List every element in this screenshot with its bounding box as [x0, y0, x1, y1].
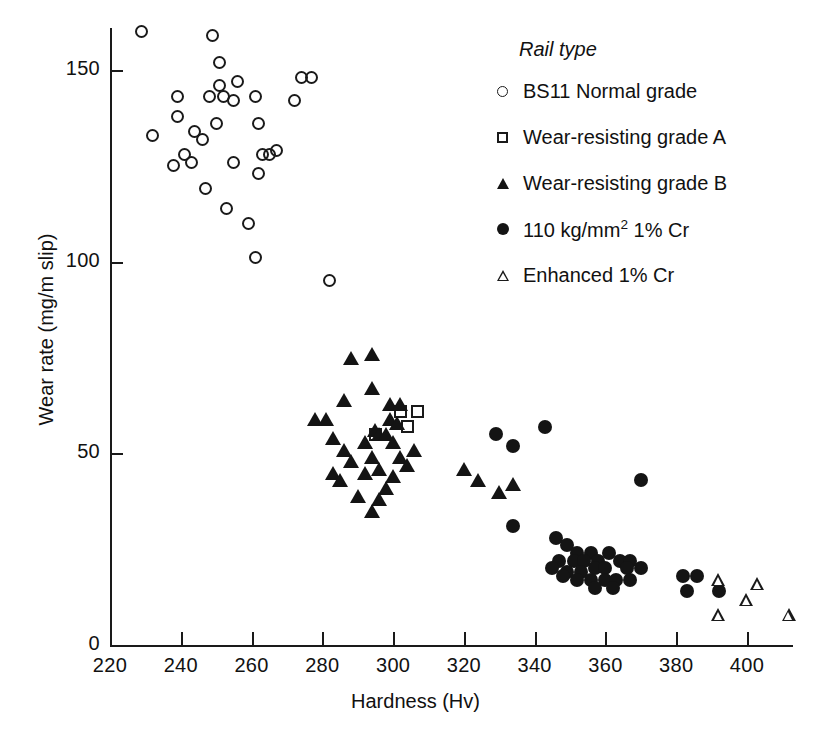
- data-point-circle-filled: [623, 573, 637, 587]
- data-point-triangle-filled: [332, 473, 348, 487]
- legend-item-4[interactable]: Enhanced 1% Cr: [497, 263, 797, 287]
- data-point-circle-filled: [680, 584, 694, 598]
- data-point-circle-open: [231, 75, 244, 88]
- data-point-circle-open: [288, 94, 301, 107]
- x-tick-label-220: 220: [78, 654, 142, 677]
- data-point-circle-filled: [506, 519, 520, 533]
- x-tick-label-280: 280: [290, 654, 354, 677]
- data-point-circle-open: [249, 90, 262, 103]
- data-point-circle-open: [213, 56, 226, 69]
- legend-label-3: 110 kg/mm2 1% Cr: [523, 217, 689, 242]
- data-point-triangle-filled: [343, 351, 359, 365]
- x-tick-label-360: 360: [573, 654, 637, 677]
- data-point-triangle-filled: [357, 466, 373, 480]
- data-point-circle-open: [270, 144, 283, 157]
- data-point-triangle-open: [782, 608, 796, 621]
- x-axis-label: Hardness (Hv): [0, 690, 831, 713]
- legend-label-0: BS11 Normal grade: [523, 80, 697, 103]
- data-point-circle-open: [249, 251, 262, 264]
- x-tick-label-300: 300: [361, 654, 425, 677]
- data-point-circle-filled: [556, 569, 570, 583]
- x-tick-label-380: 380: [644, 654, 708, 677]
- legend-item-2[interactable]: Wear-resisting grade B: [497, 171, 797, 195]
- data-point-circle-filled: [676, 569, 690, 583]
- data-point-circle-open: [305, 71, 318, 84]
- legend-item-3[interactable]: 110 kg/mm2 1% Cr: [497, 217, 797, 241]
- data-point-circle-open: [227, 94, 240, 107]
- data-point-circle-filled: [489, 427, 503, 441]
- data-point-triangle-filled: [392, 397, 408, 411]
- data-point-circle-open: [196, 133, 209, 146]
- data-point-circle-open: [171, 110, 184, 123]
- x-tick-label-320: 320: [432, 654, 496, 677]
- data-point-circle-filled: [570, 573, 584, 587]
- data-point-circle-open: [167, 159, 180, 172]
- x-axis-line: [110, 645, 793, 647]
- legend-item-1[interactable]: Wear-resisting grade A: [497, 125, 797, 149]
- triangle-filled-icon: [497, 178, 509, 189]
- data-point-triangle-filled: [364, 381, 380, 395]
- data-point-triangle-open: [739, 593, 753, 606]
- circle-open-icon: [497, 86, 508, 97]
- data-point-circle-filled: [634, 561, 648, 575]
- x-tick-label-400: 400: [715, 654, 779, 677]
- circle-filled-icon: [497, 223, 509, 235]
- triangle-open-icon: [497, 270, 509, 281]
- data-point-circle-open: [171, 90, 184, 103]
- data-point-triangle-filled: [491, 485, 507, 499]
- data-point-triangle-filled: [336, 393, 352, 407]
- data-point-circle-open: [199, 182, 212, 195]
- data-point-circle-open: [185, 156, 198, 169]
- data-point-circle-filled: [712, 584, 726, 598]
- legend-items: BS11 Normal gradeWear-resisting grade AW…: [497, 79, 797, 287]
- data-point-circle-open: [220, 202, 233, 215]
- data-point-triangle-open: [711, 573, 725, 586]
- square-open-icon: [497, 132, 508, 143]
- data-point-triangle-filled: [470, 473, 486, 487]
- legend-marker-circle-open-icon: [497, 86, 523, 97]
- y-tick-label-0: 0: [38, 632, 100, 655]
- data-point-circle-open: [323, 274, 336, 287]
- legend-label-4: Enhanced 1% Cr: [523, 264, 674, 287]
- data-point-triangle-open: [750, 577, 764, 590]
- data-point-circle-filled: [506, 439, 520, 453]
- legend-item-0[interactable]: BS11 Normal grade: [497, 79, 797, 103]
- data-point-circle-filled: [634, 473, 648, 487]
- data-point-triangle-filled: [364, 504, 380, 518]
- data-point-triangle-filled: [399, 458, 415, 472]
- data-point-triangle-filled: [505, 477, 521, 491]
- data-point-circle-open: [252, 117, 265, 130]
- data-point-circle-filled: [690, 569, 704, 583]
- data-point-circle-open: [252, 167, 265, 180]
- x-tick-label-340: 340: [503, 654, 567, 677]
- data-point-triangle-filled: [350, 489, 366, 503]
- data-point-triangle-filled: [318, 412, 334, 426]
- data-point-circle-filled: [588, 581, 602, 595]
- data-point-circle-open: [227, 156, 240, 169]
- data-point-circle-open: [135, 25, 148, 38]
- data-point-circle-filled: [538, 420, 552, 434]
- data-point-triangle-filled: [406, 443, 422, 457]
- data-point-triangle-filled: [385, 435, 401, 449]
- legend-marker-circle-filled-icon: [497, 223, 523, 235]
- y-axis-label: Wear rate (mg/m slip): [35, 70, 58, 590]
- legend-title: Rail type: [519, 38, 797, 61]
- legend-label-2: Wear-resisting grade B: [523, 172, 727, 195]
- data-point-triangle-filled: [357, 435, 373, 449]
- x-tick-label-260: 260: [220, 654, 284, 677]
- wear-rate-vs-hardness-scatter-chart: 220240260280300320340360380400 050100150…: [0, 0, 831, 743]
- data-point-square-open: [411, 405, 424, 418]
- data-point-triangle-open: [711, 608, 725, 621]
- legend-marker-triangle-filled-icon: [497, 178, 523, 189]
- x-tick-label-240: 240: [149, 654, 213, 677]
- data-point-circle-open: [146, 129, 159, 142]
- legend-label-1: Wear-resisting grade A: [523, 126, 726, 149]
- legend: Rail type BS11 Normal gradeWear-resistin…: [497, 38, 797, 309]
- data-point-circle-open: [242, 217, 255, 230]
- legend-marker-square-open-icon: [497, 132, 523, 143]
- legend-marker-triangle-open-icon: [497, 270, 523, 281]
- data-point-triangle-filled: [364, 347, 380, 361]
- data-point-circle-open: [206, 29, 219, 42]
- data-point-circle-filled: [606, 581, 620, 595]
- data-point-circle-open: [203, 90, 216, 103]
